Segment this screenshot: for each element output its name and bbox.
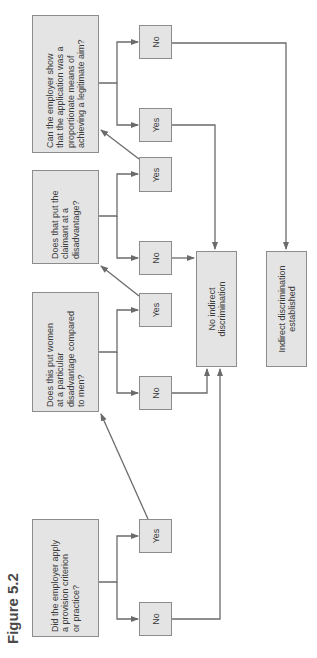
- answer-box-q3-no: No: [139, 241, 172, 275]
- outcome-no-indirect-discrimination: No indirect discrimination: [196, 251, 237, 367]
- answer-box-q2-no: No: [139, 376, 172, 410]
- question-box-proportionate-means: Can the employer show that the applicati…: [32, 15, 99, 153]
- question-text: Did the employer apply a provision crite…: [50, 524, 81, 632]
- answer-text: Yes: [150, 110, 160, 140]
- answer-box-q2-yes: Yes: [139, 293, 172, 327]
- question-box-provision-criterion: Did the employer apply a provision crite…: [32, 519, 99, 637]
- answer-text: No: [150, 27, 160, 57]
- question-box-claimant-disadvantage: Does that put the claimant at a disadvan…: [32, 170, 99, 264]
- answer-text: Yes: [150, 521, 160, 551]
- answer-text: No: [150, 378, 160, 408]
- answer-text: Yes: [150, 295, 160, 325]
- answer-box-q1-no: No: [139, 602, 172, 636]
- answer-box-q3-yes: Yes: [139, 157, 172, 192]
- question-box-women-disadvantage: Does this put women at a particular disa…: [32, 292, 99, 412]
- question-text: Does this put women at a particular disa…: [45, 297, 87, 407]
- answer-box-q1-yes: Yes: [139, 519, 172, 553]
- outcome-text: Indirect discrimination established: [276, 253, 297, 365]
- question-text: Does that put the claimant at a disadvan…: [50, 175, 81, 259]
- answer-text: No: [150, 604, 160, 634]
- figure-label: Figure 5.2: [4, 573, 21, 644]
- answer-box-q4-no: No: [139, 25, 172, 59]
- answer-text: Yes: [150, 160, 160, 190]
- outcome-indirect-discrimination-established: Indirect discrimination established: [266, 251, 307, 367]
- outcome-text: No indirect discrimination: [206, 254, 227, 364]
- answer-text: No: [150, 243, 160, 273]
- question-text: Can the employer show that the applicati…: [45, 20, 87, 148]
- answer-box-q4-yes: Yes: [139, 108, 172, 142]
